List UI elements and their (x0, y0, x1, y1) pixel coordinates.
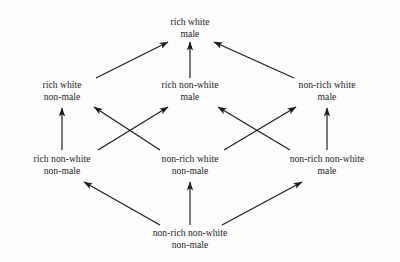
node-nrwm: non-rich whitemale (299, 79, 356, 102)
node-rwnm: rich whitenon-male (42, 79, 81, 102)
node-label-line: male (290, 164, 365, 176)
hasse-diagram: rich whitemalerich whitenon-malerich non… (0, 0, 400, 262)
node-rnwm: rich non-whitemale (162, 79, 219, 102)
node-label-line: non-male (153, 238, 228, 250)
edge-arrow (96, 42, 168, 78)
node-label-line: non-male (162, 164, 219, 176)
edge-arrow (224, 107, 296, 150)
node-label-line: rich white (170, 16, 209, 28)
edge-arrow (222, 182, 302, 225)
node-label-line: non-rich non-white (290, 153, 365, 165)
node-label-line: non-rich white (162, 153, 219, 165)
edge-arrow (214, 42, 294, 78)
node-label-line: rich white (42, 79, 81, 91)
node-rnwnm: rich non-whitenon-male (34, 153, 91, 176)
node-label-line: male (162, 90, 219, 102)
node-nrnwm: non-rich non-whitemale (290, 153, 365, 176)
edge-group (62, 42, 327, 225)
node-label-line: non-rich non-white (153, 227, 228, 239)
node-label-line: non-rich white (299, 79, 356, 91)
edge-arrow (218, 107, 290, 150)
node-label-line: non-male (34, 164, 91, 176)
node-nrwnm: non-rich whitenon-male (162, 153, 219, 176)
node-label-line: male (299, 90, 356, 102)
node-nrnwnm: non-rich non-whitenon-male (153, 227, 228, 250)
edge-arrow (98, 107, 168, 150)
node-rwm: rich whitemale (170, 16, 209, 39)
node-label-line: rich non-white (34, 153, 91, 165)
edge-layer (0, 0, 400, 262)
edge-arrow (84, 182, 160, 225)
node-label-line: non-male (42, 90, 81, 102)
edge-arrow (94, 107, 160, 150)
node-label-line: rich non-white (162, 79, 219, 91)
node-label-line: male (170, 27, 209, 39)
